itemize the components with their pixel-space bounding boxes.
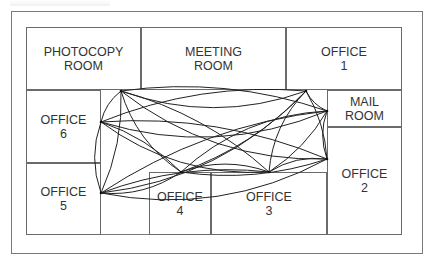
door-point-office4 — [180, 171, 183, 174]
connection-line — [101, 159, 327, 200]
door-point-office1 — [305, 90, 308, 93]
connection-line — [101, 91, 121, 193]
door-point-office5 — [100, 192, 103, 195]
connection-line — [101, 122, 269, 172]
door-point-photocopy — [120, 90, 123, 93]
connection-line — [181, 91, 306, 172]
connection-line — [101, 172, 181, 194]
connection-network — [0, 0, 430, 260]
door-point-office2 — [326, 158, 329, 161]
door-point-office6 — [100, 121, 103, 124]
connection-line — [95, 122, 101, 193]
connection-line — [101, 91, 121, 122]
door-point-office3 — [268, 171, 271, 174]
door-point-mailroom — [326, 110, 329, 113]
connection-line — [269, 158, 327, 172]
